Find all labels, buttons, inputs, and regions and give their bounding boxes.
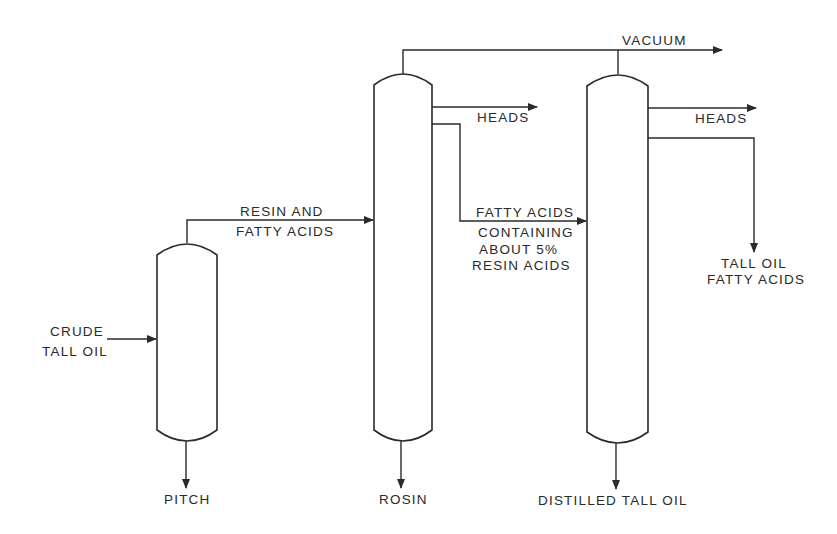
fatty-label-line1: FATTY ACIDS	[476, 205, 574, 220]
process-flow-diagram: CRUDE TALL OIL RESIN AND FATTY ACIDS VAC…	[0, 0, 837, 534]
vacuum-label: VACUUM	[622, 33, 687, 48]
column-3-vessel	[587, 75, 648, 443]
rosin-label: ROSIN	[379, 492, 428, 507]
fatty-label-line3: ABOUT 5%	[479, 242, 558, 257]
vacuum-line	[403, 50, 722, 74]
pitch-label: PITCH	[164, 492, 211, 507]
heads-2-label: HEADS	[695, 111, 748, 126]
tofa-label-line2: FATTY ACIDS	[707, 272, 805, 287]
distilled-label: DISTILLED TALL OIL	[538, 493, 688, 508]
tofa-line	[648, 138, 754, 252]
heads-1-label: HEADS	[477, 110, 530, 125]
resin-label-line2: FATTY ACIDS	[236, 224, 334, 239]
column-1-vessel	[157, 244, 217, 441]
column-2-vessel	[374, 74, 432, 441]
resin-label-line1: RESIN AND	[240, 204, 324, 219]
tofa-label-line1: TALL OIL	[721, 256, 787, 271]
crude-label-line2: TALL OIL	[42, 344, 108, 359]
fatty-label-line4: RESIN ACIDS	[472, 258, 571, 273]
fatty-label-line2: CONTAINING	[478, 225, 574, 240]
crude-label-line1: CRUDE	[50, 324, 104, 339]
